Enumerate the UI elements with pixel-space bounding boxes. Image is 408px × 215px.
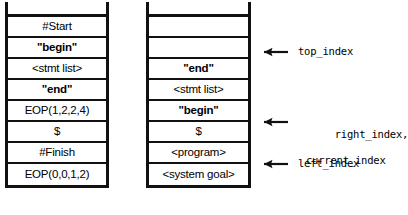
left-stack-cell-0: #Start [8,17,106,38]
left-stack-cell-4: EOP(1,2,2,4) [8,101,106,122]
annotation-right-index-label: right_index, current_index [298,115,408,193]
left-stack-cell-5: $ [8,122,106,143]
left-arrow-icon [263,158,289,170]
annotation-right-index-line1: right_index, [335,128,408,140]
right-stack: "end" <stmt list> "begin" $ <program> <s… [146,2,251,188]
right-stack-cell-6: <program> [149,143,248,164]
right-stack-cell-2: "end" [149,59,248,80]
right-stack-cell-0 [149,17,248,38]
left-stack-cell-2: <stmt list> [8,59,106,80]
right-stack-cell-1 [149,38,248,59]
left-stack-cell-3: "end" [8,80,106,101]
annotation-left-index-label: left_index [298,157,359,170]
left-arrow-icon [263,46,289,58]
right-stack-cell-4: "begin" [149,101,248,122]
left-stack-cell-7: EOP(0,0,1,2) [8,164,106,185]
right-stack-open-top [149,2,248,17]
left-stack-cell-1: "begin" [8,38,106,59]
annotation-right-index: right_index, current_index [263,115,408,193]
annotation-left-index: left_index [263,157,359,170]
right-stack-cell-5: $ [149,122,248,143]
annotation-top-index-label: top_index [298,45,353,58]
right-stack-cell-3: <stmt list> [149,80,248,101]
right-stack-cell-7: <system goal> [149,164,248,185]
annotation-top-index: top_index [263,45,353,58]
left-stack: #Start "begin" <stmt list> "end" EOP(1,2… [5,2,109,188]
left-stack-cell-6: #Finish [8,143,106,164]
left-stack-open-top [8,2,106,17]
left-arrow-icon [263,116,289,128]
